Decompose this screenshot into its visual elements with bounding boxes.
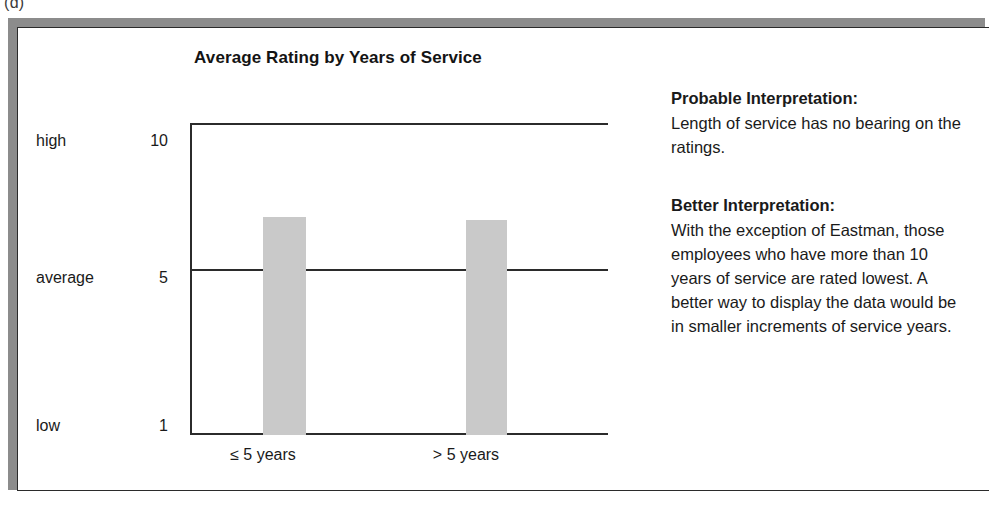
plot-frame-left-axis	[190, 123, 192, 435]
chart-area: Average Rating by Years of Service high …	[18, 28, 678, 492]
note-probable-body: Length of service has no bearing on the …	[671, 111, 971, 159]
bar-le-5-years	[263, 217, 306, 435]
note-probable-interpretation: Probable Interpretation: Length of servi…	[671, 86, 971, 159]
note-better-body: With the exception of Eastman, those emp…	[671, 218, 971, 338]
interpretation-notes: Probable Interpretation: Length of servi…	[671, 86, 971, 372]
x-tick-le-5-years: ≤ 5 years	[193, 446, 333, 464]
x-tick-gt-5-years: > 5 years	[396, 446, 536, 464]
chart-title: Average Rating by Years of Service	[18, 48, 658, 68]
note-better-interpretation: Better Interpretation: With the exceptio…	[671, 193, 971, 338]
figure-label: (d)	[4, 0, 24, 12]
plot-area	[190, 123, 608, 435]
bar-gt-5-years	[466, 220, 507, 435]
average-reference-line	[190, 269, 608, 271]
y-tick-low: low 1	[36, 416, 184, 436]
y-tick-high-value: 10	[150, 131, 168, 151]
plot-frame-top-line	[190, 123, 608, 125]
figure-panel: Average Rating by Years of Service high …	[17, 27, 989, 491]
plot-frame-bottom-axis	[190, 433, 608, 435]
y-tick-average: average 5	[36, 268, 184, 288]
y-tick-low-value: 1	[159, 416, 168, 436]
y-tick-average-value: 5	[159, 268, 168, 288]
y-tick-high: high 10	[36, 131, 184, 151]
y-tick-low-label: low	[36, 416, 60, 436]
y-tick-high-label: high	[36, 131, 66, 151]
note-better-heading: Better Interpretation:	[671, 193, 971, 217]
y-tick-average-label: average	[36, 268, 94, 288]
note-probable-heading: Probable Interpretation:	[671, 86, 971, 110]
